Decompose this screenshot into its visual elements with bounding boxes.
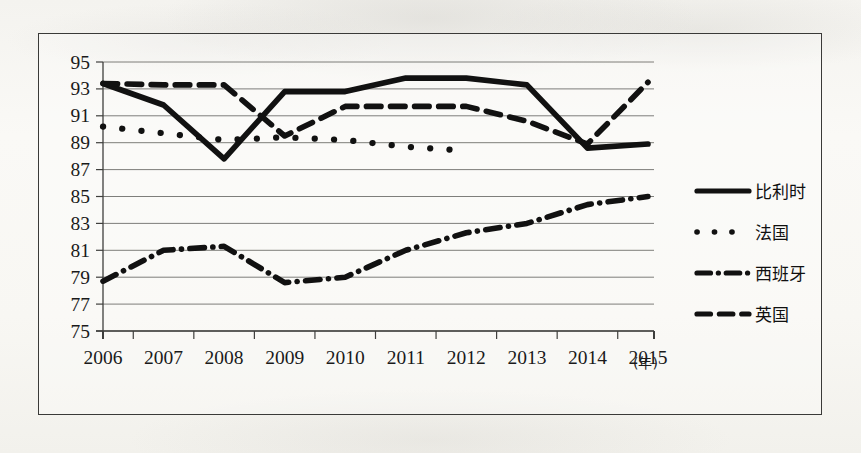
x-tick-label: 2013 bbox=[507, 347, 546, 368]
x-tick-label: 2008 bbox=[205, 347, 244, 368]
x-tick-label: 2010 bbox=[326, 347, 365, 368]
chart-page: 7577798183858789919395 20062007200820092… bbox=[0, 0, 861, 453]
x-tick-label: 2011 bbox=[387, 347, 425, 368]
legend-label-4: 英国 bbox=[755, 305, 789, 325]
y-tick-label: 91 bbox=[71, 105, 91, 126]
x-tick-label: 2012 bbox=[447, 347, 486, 368]
y-tick-label: 81 bbox=[71, 240, 91, 261]
y-tick-label: 77 bbox=[71, 294, 91, 315]
x-tick-label: 2007 bbox=[144, 347, 183, 368]
y-tick-label: 93 bbox=[71, 78, 91, 99]
series-line-3 bbox=[103, 197, 648, 283]
y-tick-label: 89 bbox=[71, 132, 91, 153]
series-line-1 bbox=[103, 78, 648, 159]
data-series-group bbox=[103, 78, 648, 283]
x-axis-group: 2006200720082009201020112012201320142015 bbox=[84, 331, 668, 368]
legend-label-1: 比利时 bbox=[755, 182, 806, 202]
y-axis-group: 7577798183858789919395 bbox=[71, 52, 104, 342]
x-tick-label: 2006 bbox=[84, 347, 123, 368]
x-tick-label: 2009 bbox=[265, 347, 304, 368]
y-tick-label: 75 bbox=[71, 321, 91, 342]
gridlines-group bbox=[103, 62, 654, 331]
y-tick-label: 95 bbox=[71, 52, 91, 73]
legend-label-3: 西班牙 bbox=[755, 264, 806, 284]
y-tick-label: 85 bbox=[71, 186, 91, 207]
y-tick-label: 87 bbox=[71, 159, 91, 180]
chart-legend: 比利时法国西班牙英国 bbox=[697, 182, 806, 325]
line-chart: 7577798183858789919395 20062007200820092… bbox=[0, 0, 861, 453]
x-axis-unit-label: (年) bbox=[633, 355, 658, 371]
y-tick-label: 79 bbox=[71, 267, 91, 288]
series-line-4 bbox=[103, 82, 648, 144]
legend-label-2: 法国 bbox=[755, 223, 789, 243]
y-tick-label: 83 bbox=[71, 213, 91, 234]
x-tick-label: 2014 bbox=[568, 347, 607, 368]
